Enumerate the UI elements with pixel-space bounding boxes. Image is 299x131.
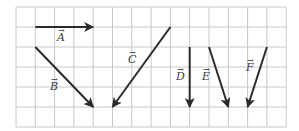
vector-diagram: A→B→C→D→E→F→ [0, 0, 299, 131]
vector-arrow-accent-icon: → [247, 56, 254, 65]
vector-arrow-accent-icon: → [177, 65, 184, 74]
vector-arrow-accent-icon: → [51, 75, 58, 84]
vector-arrow-accent-icon: → [203, 65, 210, 74]
vector-arrow-accent-icon: → [129, 48, 136, 57]
vector-e [209, 47, 228, 107]
vector-arrow-accent-icon: → [58, 26, 65, 35]
vector-b [35, 47, 93, 107]
